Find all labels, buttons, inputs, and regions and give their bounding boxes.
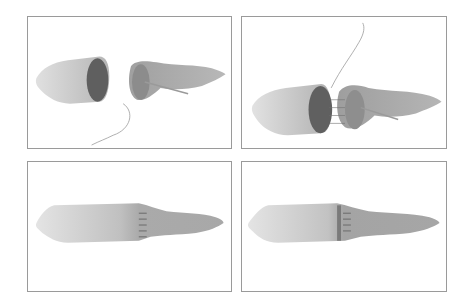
illustration-step-1 [28,17,231,148]
right-lumen [345,90,365,129]
illustration-step-2 [242,17,446,148]
joined-segment [248,203,440,242]
suture-thread [92,104,130,145]
figure-panel-step-3: Joined segment with sutures [27,161,232,292]
anastomosis-suture-line [337,205,341,240]
figure-panel-step-4: Completed anastomosis with suture line [241,161,447,292]
illustration-step-3 [28,162,231,291]
suture-thread [331,23,364,88]
joined-segment [36,203,224,242]
figure-panel-step-2: Segments approximated, suture pulled [241,16,447,149]
left-lumen [87,58,109,101]
left-lumen [309,86,333,133]
illustration-step-4 [242,162,446,291]
figure-panel-step-1: Separated segments with suture thread [27,16,232,149]
